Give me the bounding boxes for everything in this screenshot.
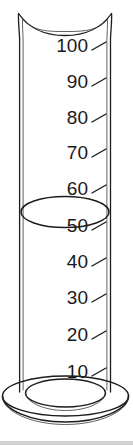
base-outer-top-ellipse	[3, 376, 129, 416]
tick-100	[92, 42, 106, 50]
tick-20	[92, 331, 106, 339]
base-inner-bottom-arc	[26, 394, 106, 411]
tick-40	[92, 258, 106, 266]
scale-label-40: 40	[67, 251, 88, 272]
scale-label-60: 60	[67, 178, 88, 199]
scale-label-70: 70	[67, 142, 88, 163]
scale-label-80: 80	[67, 107, 88, 128]
base-inner-ellipse	[26, 379, 106, 407]
cylinder-diagram: 100 90 80 70 60 50 40 30 20 10	[0, 0, 133, 445]
left-wall-inner	[23, 20, 24, 390]
cylinder-base	[3, 376, 129, 425]
cylinder-rim	[19, 14, 112, 36]
bottom-edge-strip	[0, 441, 133, 445]
liquid-surface	[21, 197, 109, 228]
base-outer-bottom-arc	[3, 396, 129, 422]
tick-60	[92, 185, 106, 193]
tick-10	[92, 368, 106, 376]
graduation-labels: 100 90 80 70 60 50 40 30 20 10	[56, 35, 88, 382]
right-wall-outer	[111, 14, 112, 392]
scale-label-50: 50	[67, 215, 88, 236]
scale-label-90: 90	[67, 71, 88, 92]
tick-30	[92, 294, 106, 302]
base-outer-bottom-arc-inner	[3, 399, 128, 425]
tick-90	[92, 78, 106, 86]
graduated-cylinder-figure: 100 90 80 70 60 50 40 30 20 10	[0, 0, 133, 445]
scale-label-30: 30	[67, 287, 88, 308]
rim-back-arc	[23, 20, 108, 32]
scale-label-100: 100	[56, 35, 88, 56]
rim-front-arc	[19, 14, 112, 36]
scale-label-20: 20	[67, 324, 88, 345]
tick-80	[92, 114, 106, 122]
graduation-ticks	[92, 42, 106, 376]
left-wall-outer	[18, 14, 19, 392]
right-wall-inner	[107, 20, 108, 390]
meniscus-ellipse	[21, 197, 109, 228]
tick-70	[92, 149, 106, 157]
scale-label-10: 10	[67, 361, 88, 382]
